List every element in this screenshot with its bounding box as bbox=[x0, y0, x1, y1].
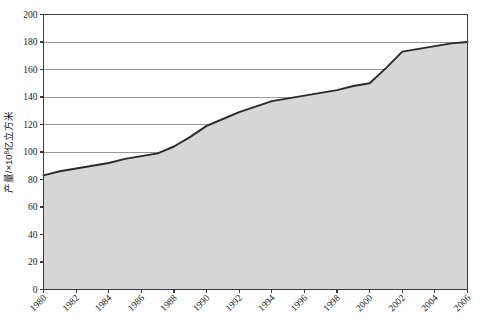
chart-container: 020406080100120140160180200 198019821984… bbox=[0, 0, 489, 332]
y-tick-label: 120 bbox=[23, 120, 38, 130]
production-area-chart: 020406080100120140160180200 198019821984… bbox=[0, 0, 489, 332]
y-tick-label: 0 bbox=[33, 285, 38, 295]
y-tick-label: 160 bbox=[23, 65, 38, 75]
y-tick-label: 40 bbox=[28, 230, 38, 240]
y-tick-label: 20 bbox=[28, 257, 38, 267]
y-tick-label: 180 bbox=[23, 37, 38, 47]
y-tick-label: 200 bbox=[23, 10, 38, 20]
y-tick-label: 140 bbox=[23, 92, 38, 102]
y-tick-label: 80 bbox=[28, 175, 38, 185]
y-tick-label: 100 bbox=[23, 147, 38, 157]
y-tick-label: 60 bbox=[28, 202, 38, 212]
